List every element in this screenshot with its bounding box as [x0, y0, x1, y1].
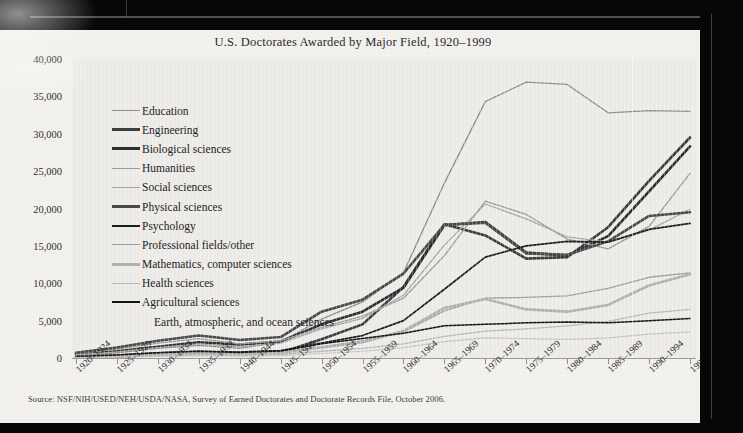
photo-top-hairline-vertical	[126, 0, 127, 17]
scanned-page-photo: U.S. Doctorates Awarded by Major Field, …	[0, 0, 743, 433]
legend-line-swatch	[112, 110, 140, 111]
y-axis-tick-label: 40,000	[0, 54, 62, 65]
legend-item: Social sciences	[112, 178, 334, 197]
y-axis-tick-label: 35,000	[0, 91, 62, 102]
legend-item-label: Professional fields/other	[142, 239, 254, 251]
legend-line-swatch	[112, 128, 140, 131]
legend-item: Agricultural sciences	[112, 293, 334, 312]
legend-line-swatch	[112, 147, 140, 150]
legend-item: Education	[112, 101, 334, 120]
legend-line-swatch	[112, 301, 140, 303]
legend-item: Earth, atmospheric, and ocean sciences	[112, 312, 334, 331]
y-axis-tick-label: 0	[0, 353, 62, 364]
legend-line-swatch	[112, 168, 140, 169]
y-axis-tick-label: 20,000	[0, 203, 62, 214]
legend-line-swatch	[112, 263, 140, 266]
legend-line-swatch	[112, 205, 140, 208]
y-axis-tick-label: 5,000	[0, 315, 62, 326]
y-axis-tick-label: 15,000	[0, 240, 62, 251]
legend-line-swatch	[112, 283, 140, 284]
legend-item-label: Earth, atmospheric, and ocean sciences	[154, 316, 334, 328]
photo-top-border	[0, 0, 743, 30]
legend-item-label: Psychology	[142, 220, 196, 232]
legend-item-label: Humanities	[142, 162, 195, 174]
legend-item-label: Physical sciences	[142, 201, 222, 213]
legend-item-label: Mathematics, computer sciences	[142, 258, 292, 270]
book-page: U.S. Doctorates Awarded by Major Field, …	[0, 27, 706, 425]
legend-line-swatch	[112, 225, 140, 227]
legend-item: Physical sciences	[112, 197, 334, 216]
legend-item: Health sciences	[112, 274, 334, 293]
legend-item: Engineering	[112, 120, 334, 139]
photo-right-hairline	[711, 14, 712, 419]
y-axis-tick-label: 10,000	[0, 278, 62, 289]
chart-legend: EducationEngineeringBiological sciencesH…	[112, 101, 334, 331]
y-axis-tick-label: 25,000	[0, 166, 62, 177]
legend-item-label: Biological sciences	[142, 143, 231, 155]
photo-right-border	[700, 0, 743, 433]
legend-item: Biological sciences	[112, 139, 334, 158]
legend-item: Mathematics, computer sciences	[112, 255, 334, 274]
legend-item-label: Health sciences	[142, 277, 214, 289]
y-axis-tick-label: 30,000	[0, 128, 62, 139]
photo-bottom-border	[0, 423, 743, 433]
legend-line-swatch	[112, 187, 140, 188]
legend-item: Psychology	[112, 216, 334, 235]
legend-item: Humanities	[112, 159, 334, 178]
legend-line-swatch	[112, 244, 140, 245]
x-axis: 1920–19241925–19291930–19341935–19391940…	[72, 359, 696, 419]
legend-item-label: Social sciences	[142, 181, 212, 193]
legend-item-label: Engineering	[142, 124, 198, 136]
legend-item-label: Education	[142, 105, 189, 117]
legend-item: Professional fields/other	[112, 235, 334, 254]
legend-item-label: Agricultural sciences	[142, 296, 239, 308]
chart-title: U.S. Doctorates Awarded by Major Field, …	[0, 35, 706, 50]
source-note: Source: NSF/NIH/USED/NEH/USDA/NASA, Surv…	[28, 394, 445, 404]
photo-top-hairline	[30, 16, 730, 18]
